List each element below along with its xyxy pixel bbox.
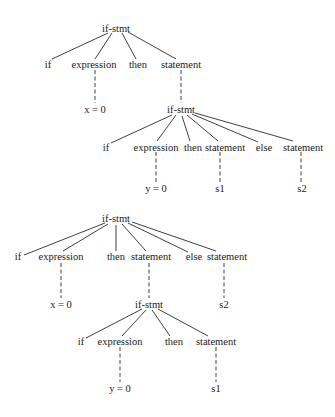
tree1-child-then: then <box>129 59 148 70</box>
tree2-child-else: else <box>186 251 203 262</box>
tree1-inner-then: then <box>184 142 203 153</box>
parse-tree-diagram: if-stmt if expression then statement x =… <box>0 0 335 417</box>
tree1-inner-root: if-stmt <box>167 104 195 115</box>
tree2-else-leaf: s2 <box>219 299 228 310</box>
tree1-inner-statement-else: statement <box>283 142 323 153</box>
tree-2: if-stmt if expression then statement els… <box>15 213 247 394</box>
tree2-expr-leaf: x = 0 <box>50 299 72 310</box>
tree1-inner-then-leaf: s1 <box>215 183 224 194</box>
tree2-child-statement-then: statement <box>131 251 171 262</box>
tree2-child-then: then <box>107 251 126 262</box>
tree2-root: if-stmt <box>102 213 130 224</box>
tree2-inner-if: if <box>78 336 85 347</box>
tree1-inner-expr-leaf: y = 0 <box>145 183 167 194</box>
tree2-inner-statement: statement <box>196 336 236 347</box>
tree2-inner-expr-leaf: y = 0 <box>109 383 131 394</box>
tree1-inner-else: else <box>256 142 273 153</box>
tree1-expr-leaf: x = 0 <box>84 104 106 115</box>
tree1-root: if-stmt <box>102 23 130 34</box>
tree2-child-if: if <box>15 251 22 262</box>
tree1-child-statement: statement <box>161 59 201 70</box>
tree1-inner-statement-then: statement <box>205 142 245 153</box>
tree2-inner-then: then <box>165 336 184 347</box>
tree1-inner-else-leaf: s2 <box>297 183 306 194</box>
tree-1: if-stmt if expression then statement x =… <box>45 23 323 194</box>
tree2-child-statement-else: statement <box>207 251 247 262</box>
tree1-inner-expression: expression <box>134 142 180 153</box>
tree1-inner-if: if <box>103 142 110 153</box>
tree1-child-if: if <box>45 59 52 70</box>
tree2-inner-expression: expression <box>98 336 144 347</box>
tree2-inner-root: if-stmt <box>135 299 163 310</box>
tree1-child-expression: expression <box>72 59 118 70</box>
tree2-inner-then-leaf: s1 <box>211 383 220 394</box>
tree2-child-expression: expression <box>39 251 85 262</box>
